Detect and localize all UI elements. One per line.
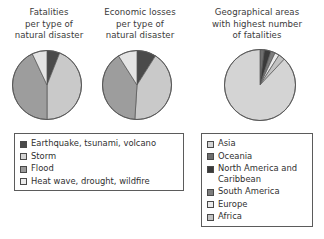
legend-swatch-icon [20,153,27,160]
figure-root: Fatalities per type of natural disaster … [0,0,324,239]
legend-item-label: North America and Caribbean [218,163,297,184]
legend-swatch-icon [20,178,27,185]
legend-item: Flood [20,163,177,174]
legend-swatch-icon [20,141,27,148]
pie-geographic-svg [223,48,297,122]
legend-swatch-icon [207,201,214,208]
legend-swatch-icon [207,153,214,160]
chart-title-economic-losses: Economic losses per type of natural disa… [96,7,184,42]
chart-title-fatalities: Fatalities per type of natural disaster [6,7,92,42]
legend-swatch-icon [20,166,27,173]
legend-swatch-icon [207,189,214,196]
region-legend: AsiaOceaniaNorth America and CaribbeanSo… [201,133,313,227]
pie-fatalities-svg [11,49,83,121]
legend-swatch-icon [207,141,214,148]
legend-item: North America and Caribbean [207,163,306,184]
legend-item-label: Heat wave, drought, wildfire [31,176,150,187]
pie-chart-fatalities [11,49,83,121]
disaster-type-legend: Earthquake, tsunami, volcanoStormFloodHe… [14,133,184,191]
chart-title-geographical-areas: Geographical areas with highest number o… [196,7,318,42]
pie-chart-geographical-areas [223,48,297,122]
legend-item: Africa [207,211,306,222]
legend-item-label: Flood [31,163,54,174]
legend-item: Asia [207,138,306,149]
legend-item: South America [207,186,306,197]
legend-item: Heat wave, drought, wildfire [20,176,177,187]
legend-item-label: South America [218,186,280,197]
legend-item-label: Europe [218,199,247,210]
pie-economic-svg [101,49,173,121]
pie-chart-economic-losses [101,49,173,121]
legend-item-label: Asia [218,138,236,149]
legend-item-label: Africa [218,211,242,222]
legend-item: Oceania [207,151,306,162]
legend-item: Europe [207,199,306,210]
legend-item: Earthquake, tsunami, volcano [20,138,177,149]
legend-swatch-icon [207,214,214,221]
legend-item-label: Oceania [218,151,252,162]
legend-item-label: Earthquake, tsunami, volcano [31,138,156,149]
legend-item-label: Storm [31,151,56,162]
legend-swatch-icon [207,166,214,173]
legend-item: Storm [20,151,177,162]
